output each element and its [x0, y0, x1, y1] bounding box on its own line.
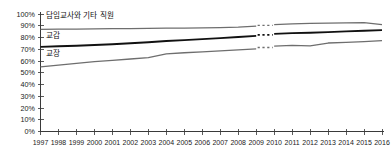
y-axis-tick-label: 90%	[21, 21, 36, 30]
x-axis-tick-label: 2015	[356, 139, 372, 146]
y-axis-tick-label: 20%	[21, 104, 36, 113]
y-axis-tick-label: 80%	[21, 33, 36, 42]
x-axis-tick-label: 2007	[212, 139, 228, 146]
x-axis-tick-label: 1997	[33, 139, 49, 146]
series-label-1: 교감	[46, 30, 60, 40]
y-axis-tick-label: 10%	[21, 115, 36, 124]
y-axis-tick-label: 40%	[21, 80, 36, 89]
series-line-0-seg-0	[41, 26, 257, 29]
y-axis-label-group: 100%90%80%70%60%50%40%30%20%10%0%	[17, 10, 36, 137]
series-line-2-seg-0	[41, 49, 257, 67]
series-group	[41, 23, 383, 67]
x-axis-tick-label: 1998	[51, 139, 67, 146]
y-axis-tick-label: 0%	[25, 127, 36, 136]
line-chart: 100%90%80%70%60%50%40%30%20%10%0% 199719…	[0, 0, 391, 152]
x-axis-tick-label: 2013	[320, 139, 336, 146]
series-label-group: 담임교사와 기타 직원교감교장	[46, 10, 114, 59]
series-break-mask-2	[258, 44, 273, 50]
x-axis-tick-label: 2006	[194, 139, 210, 146]
series-break-mask-0	[258, 22, 273, 28]
y-axis-tick-label: 60%	[21, 57, 36, 66]
y-axis-tick-label: 30%	[21, 92, 36, 101]
axis-break-group	[258, 22, 273, 50]
series-label-2: 교장	[46, 48, 60, 58]
series-line-1-seg-1	[274, 30, 382, 34]
x-axis-tick-label: 2014	[338, 139, 354, 146]
x-axis-tick-label: 2010	[266, 139, 282, 146]
y-axis-tick-label: 70%	[21, 45, 36, 54]
series-line-1-seg-0	[41, 36, 257, 47]
x-axis-tick-label: 2003	[141, 139, 157, 146]
x-axis-tick-label: 2002	[123, 139, 139, 146]
series-break-mask-1	[258, 32, 273, 38]
x-axis-tick-label: 2008	[230, 139, 246, 146]
x-axis-label-group: 1997199819992000200120022003200420052006…	[33, 139, 390, 146]
series-line-0-seg-1	[274, 23, 382, 25]
series-line-2-seg-1	[274, 41, 382, 47]
x-axis-tick-label: 2001	[105, 139, 121, 146]
x-axis-tick-label: 2005	[177, 139, 193, 146]
chart-canvas: 100%90%80%70%60%50%40%30%20%10%0% 199719…	[0, 0, 391, 152]
x-axis-tick-label: 2016	[374, 139, 390, 146]
x-axis-tick-label: 2009	[248, 139, 264, 146]
y-axis-tick-label: 100%	[17, 10, 36, 19]
x-axis-tick-label: 2004	[159, 139, 175, 146]
x-axis-tick-label: 2011	[285, 139, 300, 146]
x-axis-tick-label: 2012	[302, 139, 318, 146]
x-axis-tick-label: 1999	[69, 139, 85, 146]
series-label-0: 담임교사와 기타 직원	[46, 10, 114, 20]
x-axis-tick-label: 2000	[87, 139, 103, 146]
y-axis-tick-label: 50%	[21, 68, 36, 77]
